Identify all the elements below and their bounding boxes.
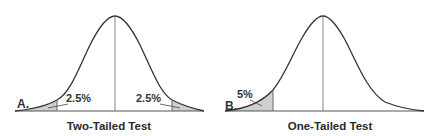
normal-curve — [225, 16, 424, 111]
normal-curve — [15, 16, 204, 111]
tail-label: 5% — [237, 88, 253, 100]
panel-two-tailed: A. 2.5% 2.5% Two-Tailed Test — [15, 16, 204, 132]
panel-one-tailed: B. 5% One-Tailed Test — [225, 16, 424, 132]
panel-letter-b: B. — [225, 99, 237, 113]
panel-letter-a: A. — [17, 97, 29, 111]
hypothesis-test-diagram: A. 2.5% 2.5% Two-Tailed Test B. 5% One-T… — [0, 0, 436, 136]
panel-title-two-tailed: Two-Tailed Test — [67, 120, 152, 132]
left-tail-label: 2.5% — [66, 92, 91, 104]
panel-title-one-tailed: One-Tailed Test — [288, 120, 373, 132]
right-tail-label: 2.5% — [136, 92, 161, 104]
